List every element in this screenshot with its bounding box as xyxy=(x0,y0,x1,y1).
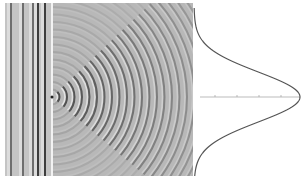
wave-panel xyxy=(0,0,232,187)
plane-wave-light-band xyxy=(19,3,22,176)
plane-wave-crest xyxy=(32,3,34,176)
plane-wave-light-band xyxy=(7,3,10,176)
intensity-plot xyxy=(194,8,300,176)
plane-wave-light-band xyxy=(41,3,44,176)
intensity-curve xyxy=(194,8,300,176)
plane-wave-light-band xyxy=(29,3,32,176)
slit-source-point xyxy=(51,96,54,99)
plane-wave-crest xyxy=(10,3,12,176)
plane-wave-crest xyxy=(44,3,46,176)
plane-wave-crest xyxy=(37,3,39,176)
plane-wave-light-band xyxy=(34,3,37,176)
plane-wave-crest xyxy=(22,3,24,176)
plane-waves xyxy=(5,3,52,176)
diffraction-diagram xyxy=(0,0,306,187)
